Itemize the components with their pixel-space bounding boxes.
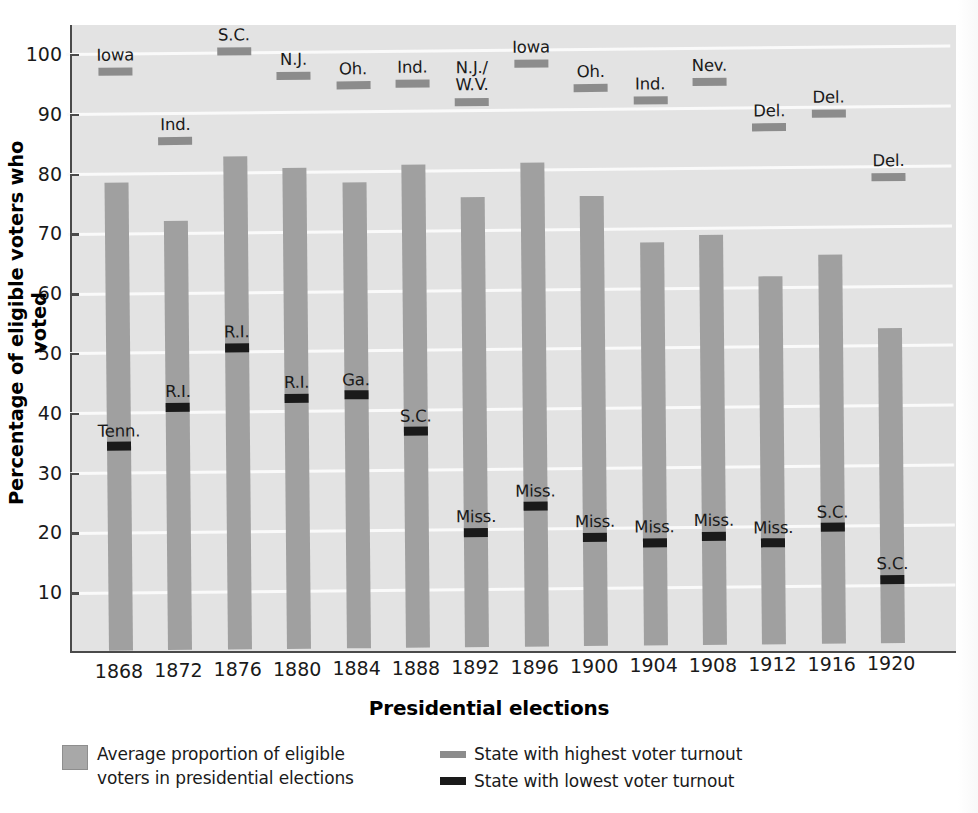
legend-entry-lowest: State with lowest voter turnout	[440, 769, 742, 793]
bar-1868	[105, 183, 133, 651]
highest-turnout-label-1892: N.J./W.V.	[427, 58, 517, 93]
bar-1908	[699, 235, 727, 645]
plot-area: IowaTenn.Ind.R.I.S.C.R.I.N.J.R.I.Oh.Ga.I…	[70, 25, 956, 653]
lowest-turnout-marker-1884	[344, 390, 368, 399]
lowest-turnout-label-1868: Tenn.	[74, 422, 164, 440]
y-tick-mark-70	[70, 233, 79, 236]
plot-inner: IowaTenn.Ind.R.I.S.C.R.I.N.J.R.I.Oh.Ga.I…	[66, 17, 956, 651]
y-tick-mark-50	[70, 353, 79, 356]
lowest-turnout-label-1912: Miss.	[728, 518, 818, 536]
lowest-turnout-marker-1868	[107, 442, 131, 451]
y-axis-title: Percentage of eligible voters who voted	[5, 113, 51, 533]
y-tick-mark-10	[70, 592, 79, 595]
highest-turnout-marker-1868	[98, 67, 132, 75]
lowest-turnout-marker-1920	[880, 575, 904, 584]
legend-entry-highest: State with highest voter turnout	[440, 742, 742, 766]
highest-turnout-label-1872: Ind.	[130, 115, 220, 133]
highest-turnout-marker-1908	[693, 77, 727, 85]
bar-1896	[520, 162, 549, 647]
highest-turnout-marker-1912	[752, 124, 786, 132]
legend-swatch-highest-marker	[440, 751, 466, 758]
bar-1880	[283, 168, 312, 649]
bar-1892	[461, 197, 489, 648]
lowest-turnout-marker-1888	[404, 427, 428, 436]
lowest-turnout-label-1896: Miss.	[490, 482, 580, 500]
lowest-turnout-label-1920: S.C.	[847, 555, 937, 573]
chart-legend: Average proportion of eligible voters in…	[62, 742, 922, 796]
highest-turnout-label-1896: Iowa	[486, 38, 576, 56]
highest-turnout-marker-1884	[336, 81, 370, 89]
lowest-turnout-marker-1904	[643, 538, 667, 547]
chart-figure: 100908070605040302010 Percentage of elig…	[0, 0, 978, 813]
lowest-turnout-marker-1908	[702, 532, 726, 541]
highest-turnout-label-1920: Del.	[843, 152, 933, 170]
y-tick-mark-30	[70, 473, 79, 476]
bar-1900	[580, 196, 608, 647]
highest-turnout-marker-1920	[872, 173, 906, 181]
bar-1904	[640, 242, 668, 645]
legend-lowest-label: State with lowest voter turnout	[474, 769, 734, 793]
highest-turnout-label-1916: Del.	[783, 88, 873, 106]
highest-turnout-marker-1904	[633, 96, 667, 104]
legend-highest-label: State with highest voter turnout	[474, 742, 742, 766]
gridline-80	[67, 165, 951, 176]
highest-turnout-marker-1896	[514, 59, 548, 67]
highest-turnout-marker-1888	[396, 79, 430, 87]
y-tick-label-10: 10	[38, 583, 62, 602]
highest-turnout-marker-1900	[574, 84, 608, 92]
bar-1916	[818, 255, 846, 644]
legend-entry-average: Average proportion of eligible voters in…	[62, 742, 432, 790]
bar-1884	[342, 182, 370, 649]
y-tick-mark-60	[70, 293, 79, 296]
bar-1872	[164, 220, 192, 650]
lowest-turnout-marker-1876	[225, 343, 249, 352]
highest-turnout-label-1904: Ind.	[605, 75, 695, 93]
legend-entries-markers: State with highest voter turnout State w…	[440, 742, 742, 796]
legend-swatch-lowest-marker	[440, 777, 466, 785]
lowest-turnout-label-1916: S.C.	[787, 503, 877, 521]
page-edge-shade	[958, 0, 978, 813]
legend-average-line2: voters in presidential elections	[97, 766, 354, 790]
y-tick-mark-40	[70, 413, 79, 416]
y-tick-label-100: 100	[26, 45, 62, 64]
lowest-turnout-marker-1912	[761, 538, 785, 547]
lowest-turnout-marker-1900	[583, 533, 607, 542]
lowest-turnout-marker-1880	[285, 393, 309, 402]
lowest-turnout-label-1884: Ga.	[311, 370, 401, 388]
bar-1920	[878, 328, 905, 643]
highest-turnout-label-1876: S.C.	[189, 26, 279, 44]
lowest-turnout-label-1888: S.C.	[371, 407, 461, 425]
y-tick-mark-80	[70, 174, 79, 177]
legend-average-line1: Average proportion of eligible	[97, 742, 354, 766]
highest-turnout-label-1908: Nev.	[664, 56, 754, 74]
highest-turnout-marker-1892	[455, 98, 489, 106]
highest-turnout-marker-1876	[217, 47, 251, 55]
x-axis-title: Presidential elections	[0, 696, 978, 720]
lowest-turnout-marker-1892	[464, 528, 488, 537]
highest-turnout-marker-1880	[277, 71, 311, 79]
y-tick-mark-90	[70, 114, 79, 117]
lowest-turnout-label-1876: R.I.	[192, 323, 282, 341]
highest-turnout-marker-1872	[158, 136, 192, 144]
lowest-turnout-marker-1872	[166, 403, 190, 412]
lowest-turnout-label-1872: R.I.	[133, 383, 223, 401]
highest-turnout-label-1868: Iowa	[70, 46, 160, 64]
y-tick-mark-20	[70, 532, 79, 535]
highest-turnout-marker-1916	[812, 109, 846, 117]
x-tick-label-1920: 1920	[856, 653, 926, 673]
legend-average-text: Average proportion of eligible voters in…	[97, 742, 354, 790]
lowest-turnout-marker-1916	[821, 523, 845, 532]
lowest-turnout-label-1892: Miss.	[431, 508, 521, 526]
bar-1876	[223, 156, 252, 650]
y-tick-mark-100	[70, 54, 79, 57]
bar-1912	[759, 276, 787, 644]
gridline-70	[68, 224, 952, 235]
lowest-turnout-marker-1896	[523, 502, 547, 511]
legend-swatch-average-bar	[62, 745, 88, 770]
